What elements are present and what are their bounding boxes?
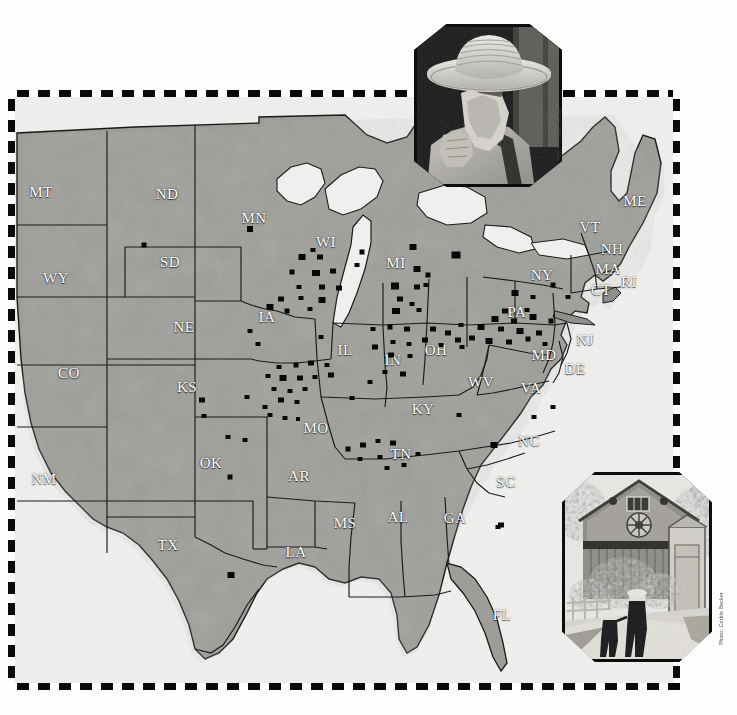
settlement-dot [266,374,271,378]
settlement-dot [392,308,400,314]
settlement-dot [407,342,412,346]
settlement-dot [445,331,451,336]
settlement-dot [452,252,461,259]
settlement-dot [296,417,300,421]
settlement-dot [226,435,231,439]
settlement-dot [245,395,250,399]
settlement-dot [243,438,248,442]
settlement-dot [410,244,417,250]
settlement-dot [486,338,493,344]
settlement-dot [297,285,302,289]
settlement-dot [511,319,517,324]
settlement-dot [496,525,501,529]
settlement-dot [417,308,422,312]
photo-credit-amish-man: Photo: Corbis Becker [556,108,562,161]
settlement-dot [277,365,282,369]
settlement-dot [400,372,406,377]
settlement-dot [350,396,355,400]
settlement-dot [551,405,556,409]
photo-barn-image [565,475,709,659]
settlement-dot [531,295,536,299]
settlement-dot [360,250,365,255]
settlement-dot [372,345,378,350]
settlement-dot [378,455,383,459]
settlement-dot [460,345,465,349]
settlement-dot [506,340,512,345]
settlement-dot [319,285,325,290]
settlement-dot [248,329,253,333]
settlement-dot [459,323,464,327]
settlement-dot [416,452,421,456]
settlement-dot [408,354,413,358]
photo-amish-man-with-straw-hat[interactable] [414,24,562,187]
settlement-dot [228,572,235,578]
settlement-dot [430,327,436,332]
settlement-dot [290,270,295,275]
settlement-dot [492,316,499,322]
settlement-dot [422,338,428,343]
settlement-dot [308,307,313,311]
settlement-dot [385,466,390,470]
settlement-dot [478,324,485,330]
settlement-dot [397,297,403,302]
settlement-dot [502,309,508,314]
settlement-dot [299,254,306,260]
settlement-dot [439,343,444,347]
settlement-dot [355,263,360,267]
photo-amish-man-image [417,27,559,184]
settlement-dot [202,414,207,418]
settlement-dot [294,363,299,368]
photo-barn-with-children[interactable] [562,472,712,662]
settlement-dot [283,416,288,420]
settlement-dot [346,447,351,452]
settlement-dot [512,290,519,296]
settlement-dot [299,296,304,300]
settlement-dot [536,331,542,336]
settlement-dot [390,441,396,446]
settlement-dot [530,314,537,320]
settlement-dot [263,405,268,409]
settlement-dot [278,297,284,302]
settlement-dot [426,273,431,278]
settlement-dot [410,302,415,306]
settlement-dot [388,353,394,358]
settlement-dot [424,283,429,287]
settlement-dot [311,248,316,252]
settlement-dot [360,443,366,448]
settlement-dot [288,389,293,393]
settlement-dot [455,338,461,343]
settlement-dot [336,286,342,291]
settlement-dot [391,340,396,344]
settlement-dot [457,413,462,417]
settlement-dot [414,266,421,272]
settlement-dot [526,337,531,342]
settlement-dot [267,304,274,310]
settlement-dot [285,309,290,314]
settlement-dot [566,295,571,299]
settlement-dot [551,283,556,288]
settlement-dot [368,380,373,384]
settlement-dot [328,373,334,378]
settlement-dot [532,415,537,419]
settlement-dot [404,327,410,332]
settlement-dot [142,243,147,248]
settlement-dot [358,457,363,461]
settlement-dot [297,376,303,381]
frame-edge-left [8,90,15,690]
settlement-dot [371,327,376,331]
settlement-dot [469,336,475,341]
settlement-dot [313,375,318,379]
settlement-dot [278,398,284,403]
settlement-dot [491,442,498,448]
settlement-dot [308,361,314,366]
settlement-dot [256,342,261,346]
settlement-dot [319,297,326,303]
settlement-dot [414,285,420,290]
settlement-dot [228,475,233,480]
settlement-dot [317,255,323,260]
settlement-dot [525,308,530,312]
settlement-dot [199,398,205,403]
settlement-dot [543,342,548,346]
settlement-dot [312,270,320,276]
photo-credit-barn: Photo: Corbis Becker [718,592,724,645]
